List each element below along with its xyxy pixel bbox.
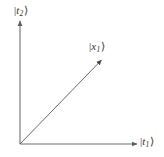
diagram-canvas: [0, 0, 164, 157]
y-axis-label-bracket: ⟩: [23, 4, 27, 16]
vector-diagram-figure: |t2⟩ |t1⟩ |x1⟩: [0, 0, 164, 157]
state-vector-arrow: [20, 60, 102, 144]
state-vector-label: |x1⟩: [89, 41, 105, 53]
y-axis-label: |t2⟩: [14, 5, 28, 17]
vector-label-bracket: ⟩: [100, 40, 104, 52]
x-axis-label-bracket: ⟩: [149, 135, 153, 147]
x-axis-label: |t1⟩: [140, 136, 154, 148]
